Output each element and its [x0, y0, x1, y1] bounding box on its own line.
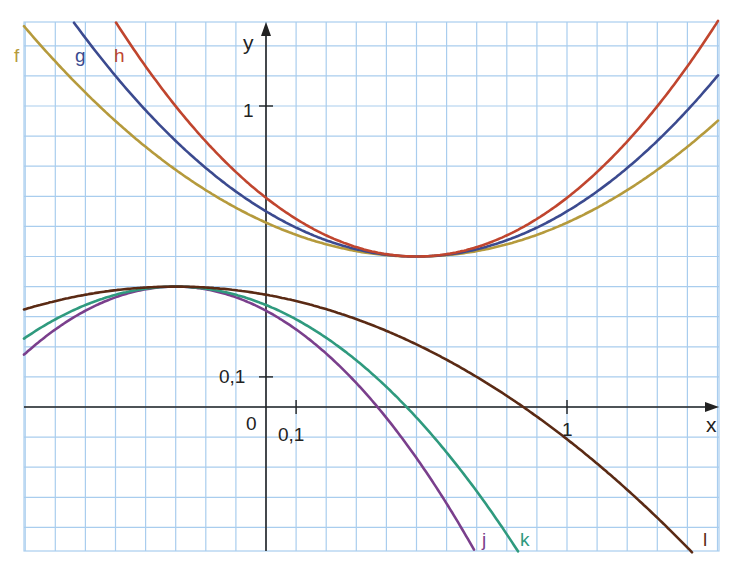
- label-l: l: [703, 530, 707, 549]
- curve-f: [24, 26, 718, 256]
- origin-label: 0: [246, 414, 257, 433]
- y-tick-label-0-1: 0,1: [219, 367, 245, 386]
- label-k: k: [520, 530, 530, 549]
- function-graph: [0, 0, 746, 573]
- y-tick-label-1: 1: [243, 101, 254, 120]
- x-tick-label-1: 1: [562, 420, 573, 439]
- label-h: h: [114, 46, 125, 65]
- curve-k: [24, 287, 518, 552]
- curve-g: [74, 23, 718, 257]
- x-axis-label: x: [706, 414, 717, 435]
- label-g: g: [75, 46, 86, 65]
- y-axis-label: y: [243, 32, 254, 53]
- x-tick-label-0-1: 0,1: [278, 425, 304, 444]
- grid: [24, 22, 719, 551]
- label-f: f: [14, 46, 19, 65]
- label-j: j: [482, 530, 486, 549]
- curve-l: [24, 287, 692, 553]
